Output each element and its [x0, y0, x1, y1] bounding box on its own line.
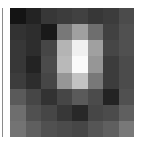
heatmap-cell: [88, 105, 104, 121]
heatmap-cell: [119, 89, 135, 105]
heatmap-cell: [10, 40, 26, 56]
heatmap-cell: [41, 40, 57, 56]
heatmap-cell: [10, 8, 26, 24]
heatmap-cell: [57, 40, 73, 56]
heatmap-cell: [119, 8, 135, 24]
heatmap-cell: [119, 24, 135, 40]
heatmap-cell: [26, 89, 42, 105]
heatmap-cell: [119, 56, 135, 72]
heatmap-cell: [72, 56, 88, 72]
heatmap-cell: [103, 8, 119, 24]
heatmap-cell: [10, 56, 26, 72]
heatmap-cell: [103, 73, 119, 89]
heatmap-cell: [72, 8, 88, 24]
heatmap-cell: [88, 40, 104, 56]
heatmap-cell: [26, 8, 42, 24]
heatmap-cell: [57, 121, 73, 137]
heatmap-cell: [41, 73, 57, 89]
heatmap-cell: [88, 73, 104, 89]
heatmap-cell: [88, 121, 104, 137]
heatmap-cell: [41, 8, 57, 24]
heatmap-cell: [26, 24, 42, 40]
heatmap-grid: [10, 8, 134, 137]
heatmap-cell: [57, 24, 73, 40]
heatmap-cell: [57, 73, 73, 89]
heatmap-cell: [88, 8, 104, 24]
heatmap-cell: [26, 105, 42, 121]
heatmap-cell: [72, 89, 88, 105]
heatmap-cell: [72, 73, 88, 89]
heatmap-cell: [119, 40, 135, 56]
heatmap-cell: [72, 40, 88, 56]
heatmap-cell: [103, 40, 119, 56]
heatmap-cell: [119, 73, 135, 89]
heatmap-cell: [41, 56, 57, 72]
heatmap-cell: [103, 105, 119, 121]
heatmap-cell: [41, 121, 57, 137]
heatmap-cell: [72, 121, 88, 137]
heatmap-cell: [26, 40, 42, 56]
heatmap-cell: [10, 89, 26, 105]
heatmap-cell: [41, 89, 57, 105]
heatmap-cell: [57, 8, 73, 24]
heatmap-cell: [41, 24, 57, 40]
heatmap-cell: [88, 56, 104, 72]
heatmap-cell: [10, 121, 26, 137]
heatmap-cell: [103, 56, 119, 72]
heatmap-cell: [26, 73, 42, 89]
heatmap-cell: [88, 89, 104, 105]
heatmap-cell: [119, 105, 135, 121]
heatmap-cell: [10, 105, 26, 121]
heatmap-cell: [41, 105, 57, 121]
heatmap-cell: [72, 24, 88, 40]
heatmap-cell: [88, 24, 104, 40]
heatmap-cell: [10, 24, 26, 40]
heatmap-cell: [119, 121, 135, 137]
heatmap-cell: [26, 121, 42, 137]
heatmap-cell: [103, 89, 119, 105]
heatmap-cell: [72, 105, 88, 121]
heatmap-cell: [26, 56, 42, 72]
heatmap-cell: [103, 24, 119, 40]
left-border-line: [2, 8, 3, 137]
heatmap-cell: [57, 89, 73, 105]
heatmap-figure: [0, 0, 141, 145]
heatmap-cell: [57, 105, 73, 121]
heatmap-cell: [57, 56, 73, 72]
heatmap-cell: [103, 121, 119, 137]
heatmap-cell: [10, 73, 26, 89]
